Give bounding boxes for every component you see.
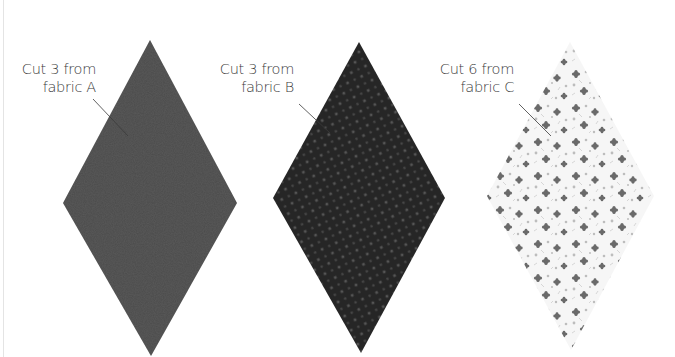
cut-label-b-line2: fabric B (212, 78, 294, 96)
cut-label-a-line2: fabric A (20, 78, 96, 96)
cut-label-b: Cut 3 from fabric B (212, 60, 294, 96)
cut-label-a: Cut 3 from fabric A (20, 60, 96, 96)
cut-label-c-line1: Cut 6 from (432, 60, 514, 78)
diamond-pieces-illustration (0, 0, 675, 357)
cut-label-b-line1: Cut 3 from (212, 60, 294, 78)
cut-label-c: Cut 6 from fabric C (432, 60, 514, 96)
cut-label-a-line1: Cut 3 from (20, 60, 96, 78)
diamond-piece-b (273, 42, 445, 353)
cut-label-c-line2: fabric C (432, 78, 514, 96)
